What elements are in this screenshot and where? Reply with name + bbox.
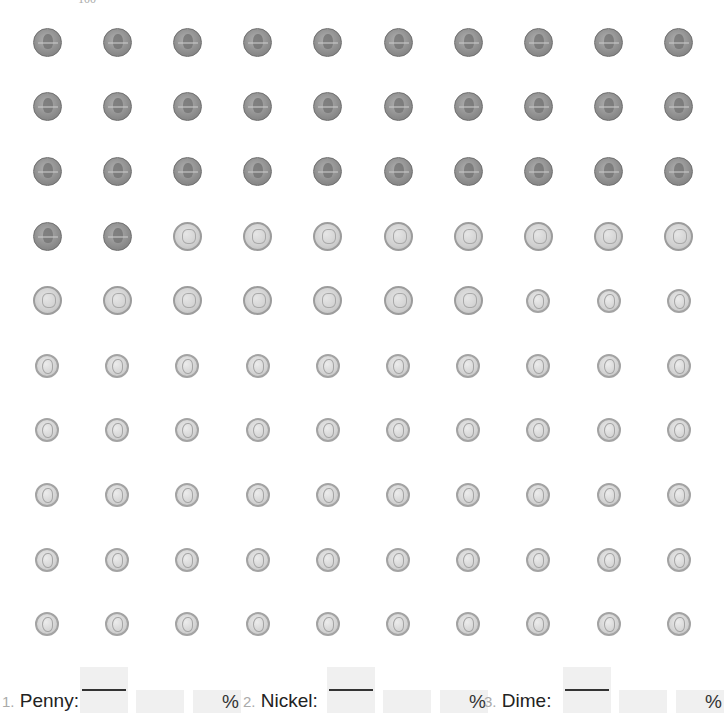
decimal-input[interactable] xyxy=(136,690,184,713)
dime-coin-icon xyxy=(526,354,550,378)
dime-coin-icon xyxy=(105,354,129,378)
dime-coin-icon xyxy=(597,483,621,507)
penny-coin-icon xyxy=(454,92,483,121)
dime-coin-icon xyxy=(105,612,129,636)
dime-coin-icon xyxy=(597,289,621,313)
dime-coin-icon xyxy=(386,418,410,442)
dime-coin-icon xyxy=(456,483,480,507)
question-text: Penny: xyxy=(20,690,79,711)
penny-coin-icon xyxy=(313,92,342,121)
dime-coin-icon xyxy=(175,354,199,378)
penny-coin-icon xyxy=(173,28,202,57)
dime-coin-icon xyxy=(246,483,270,507)
penny-coin-icon xyxy=(454,157,483,186)
dime-coin-icon xyxy=(246,418,270,442)
penny-coin-icon xyxy=(243,28,272,57)
penny-coin-icon xyxy=(243,92,272,121)
dime-coin-icon xyxy=(246,548,270,572)
dime-coin-icon xyxy=(667,418,691,442)
nickel-coin-icon xyxy=(33,286,62,315)
penny-coin-icon xyxy=(524,92,553,121)
dime-coin-icon xyxy=(456,548,480,572)
dime-coin-icon xyxy=(667,548,691,572)
dime-coin-icon xyxy=(35,612,59,636)
nickel-coin-icon xyxy=(454,286,483,315)
dime-coin-icon xyxy=(175,548,199,572)
dime-coin-icon xyxy=(175,612,199,636)
dime-coin-icon xyxy=(526,612,550,636)
dime-coin-icon xyxy=(667,354,691,378)
dime-coin-icon xyxy=(316,354,340,378)
percent-input[interactable]: % xyxy=(440,690,488,713)
dime-coin-icon xyxy=(526,418,550,442)
penny-coin-icon xyxy=(594,157,623,186)
question-number: 2. xyxy=(243,693,256,710)
dime-coin-icon xyxy=(246,354,270,378)
penny-coin-icon xyxy=(313,157,342,186)
nickel-coin-icon xyxy=(243,222,272,251)
penny-coin-icon xyxy=(33,28,62,57)
fraction-input[interactable] xyxy=(327,667,375,713)
dime-coin-icon xyxy=(667,483,691,507)
dime-coin-icon xyxy=(597,418,621,442)
nickel-coin-icon xyxy=(664,222,693,251)
penny-coin-icon xyxy=(664,92,693,121)
penny-coin-icon xyxy=(524,28,553,57)
dime-coin-icon xyxy=(175,418,199,442)
dime-coin-icon xyxy=(386,354,410,378)
penny-coin-icon xyxy=(243,157,272,186)
fraction-bar xyxy=(565,689,609,691)
dime-coin-icon xyxy=(456,418,480,442)
fraction-bar xyxy=(82,689,126,691)
penny-coin-icon xyxy=(594,92,623,121)
penny-coin-icon xyxy=(173,92,202,121)
question-label: 1. Penny: xyxy=(2,690,79,713)
penny-coin-icon xyxy=(103,92,132,121)
nickel-coin-icon xyxy=(243,286,272,315)
question-nickel: 2. Nickel: % xyxy=(241,660,482,713)
penny-coin-icon xyxy=(384,28,413,57)
nickel-coin-icon xyxy=(384,222,413,251)
decimal-input[interactable] xyxy=(383,690,431,713)
dime-coin-icon xyxy=(597,354,621,378)
decimal-input[interactable] xyxy=(619,690,667,713)
penny-coin-icon xyxy=(33,92,62,121)
percent-input[interactable]: % xyxy=(676,690,724,713)
dime-coin-icon xyxy=(35,418,59,442)
dime-coin-icon xyxy=(386,548,410,572)
question-number: 3. xyxy=(484,693,497,710)
dime-coin-icon xyxy=(667,612,691,636)
coin-grid xyxy=(0,0,722,660)
nickel-coin-icon xyxy=(173,222,202,251)
dime-coin-icon xyxy=(526,289,550,313)
percent-input[interactable]: % xyxy=(193,690,241,713)
dime-coin-icon xyxy=(316,418,340,442)
dime-coin-icon xyxy=(597,612,621,636)
dime-coin-icon xyxy=(667,289,691,313)
dime-coin-icon xyxy=(597,548,621,572)
fraction-bar xyxy=(329,689,373,691)
penny-coin-icon xyxy=(524,157,553,186)
penny-coin-icon xyxy=(33,157,62,186)
nickel-coin-icon xyxy=(384,286,413,315)
dime-coin-icon xyxy=(526,548,550,572)
fraction-input[interactable] xyxy=(80,667,128,713)
nickel-coin-icon xyxy=(103,286,132,315)
question-label: 3. Dime: xyxy=(484,690,551,713)
fraction-input[interactable] xyxy=(563,667,611,713)
answer-row: 1. Penny: % 2. Nickel: % 3. Dime: % xyxy=(0,660,722,713)
dime-coin-icon xyxy=(316,548,340,572)
dime-coin-icon xyxy=(386,612,410,636)
penny-coin-icon xyxy=(384,92,413,121)
penny-coin-icon xyxy=(454,28,483,57)
dime-coin-icon xyxy=(35,483,59,507)
dime-coin-icon xyxy=(35,354,59,378)
question-penny: 1. Penny: % xyxy=(0,660,241,713)
question-dime: 3. Dime: % xyxy=(482,660,722,713)
question-text: Dime: xyxy=(502,690,552,711)
nickel-coin-icon xyxy=(313,286,342,315)
penny-coin-icon xyxy=(103,28,132,57)
nickel-coin-icon xyxy=(454,222,483,251)
dime-coin-icon xyxy=(316,612,340,636)
nickel-coin-icon xyxy=(524,222,553,251)
